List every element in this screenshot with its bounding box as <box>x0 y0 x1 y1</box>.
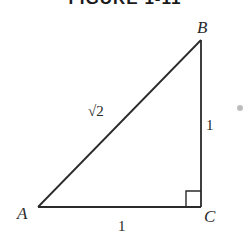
vertex-a-label: A <box>16 204 28 223</box>
vertex-c-label: C <box>204 207 216 226</box>
side-bc-label: 1 <box>206 117 214 133</box>
hypotenuse-label: √2 <box>88 103 104 119</box>
vertex-b-label: B <box>197 18 208 37</box>
triangle-diagram: B A C √2 1 1 <box>0 0 250 247</box>
side-ac-label: 1 <box>118 218 126 234</box>
right-angle-marker <box>186 191 201 207</box>
stray-dot <box>237 105 243 111</box>
triangle-shape <box>38 40 201 207</box>
hypotenuse-ab <box>38 40 201 207</box>
